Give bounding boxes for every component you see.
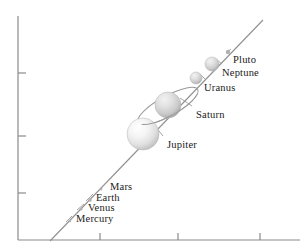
x-axis-ticks	[100, 233, 260, 240]
label-uranus: Uranus	[204, 83, 236, 94]
planet-mercury-icon	[69, 220, 71, 222]
label-jupiter: Jupiter	[167, 140, 197, 151]
y-axis-ticks	[18, 73, 26, 193]
planet-neptune-icon	[205, 57, 219, 71]
planet-pluto-icon	[226, 50, 230, 54]
planet-mars-icon	[100, 188, 103, 191]
label-saturn: Saturn	[196, 110, 225, 121]
label-mercury: Mercury	[76, 214, 114, 225]
label-mars: Mars	[110, 182, 132, 193]
diagram-canvas	[0, 0, 304, 252]
label-pluto: Pluto	[233, 55, 256, 66]
label-neptune: Neptune	[222, 68, 259, 79]
planet-venus-icon	[79, 207, 82, 210]
planet-distance-diagram: Pluto Neptune Uranus Saturn Jupiter Mars…	[0, 0, 304, 252]
planet-saturn-icon	[155, 92, 181, 118]
planet-uranus-icon	[190, 72, 202, 84]
label-venus: Venus	[88, 203, 115, 214]
